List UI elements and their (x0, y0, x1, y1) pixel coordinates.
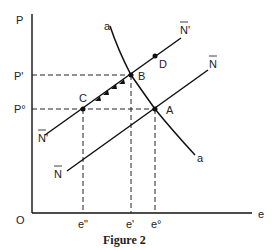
svg-text:N: N (209, 58, 217, 70)
figure-caption: Figure 2 (103, 233, 146, 247)
figure-2-diagram: P P' P° O e e" e' e° a a N' N' N N C B A… (0, 0, 272, 250)
point-c-label: C (79, 92, 87, 104)
point-c (81, 107, 86, 112)
n-label-top: N (209, 56, 217, 70)
n-prime-curve (45, 38, 181, 135)
a-curve-label-bottom: a (197, 152, 204, 164)
x-tick-e-double-prime: e" (78, 218, 88, 230)
a-curve-label-top: a (104, 20, 111, 32)
point-b-label: B (138, 70, 145, 82)
point-d (153, 54, 158, 59)
x-axis-label: e (258, 208, 264, 220)
n-prime-label-top: N' (180, 22, 190, 36)
point-d-label: D (159, 58, 167, 70)
n-prime-label-bottom: N' (38, 130, 48, 144)
x-tick-e-zero: e° (151, 218, 162, 230)
svg-text:N': N' (180, 24, 190, 36)
x-tick-e-prime: e' (126, 218, 134, 230)
point-b (129, 73, 134, 78)
origin-label: O (16, 214, 25, 226)
n-label-bottom: N (54, 166, 62, 180)
svg-text:N: N (54, 168, 62, 180)
y-tick-p-zero: P° (14, 103, 26, 115)
svg-text:N': N' (38, 132, 48, 144)
dashed-guides (32, 75, 155, 213)
a-curve (110, 26, 195, 155)
y-tick-p-prime: P' (14, 70, 23, 82)
point-a-label: A (166, 104, 174, 116)
point-a (153, 107, 158, 112)
adjustment-arrows (95, 79, 125, 101)
y-axis-label: P (16, 14, 23, 26)
